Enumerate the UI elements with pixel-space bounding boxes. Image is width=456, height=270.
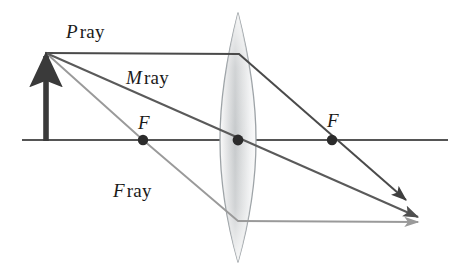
m-ray-label-symbol: M (126, 67, 144, 88)
focal-point-left-dot (138, 135, 148, 145)
focal-point-right-label: F (327, 111, 339, 130)
p-ray-incoming (46, 53, 239, 54)
f-ray-outgoing (238, 221, 418, 222)
ray-diagram-figure: Pray Mray Fray F F (0, 0, 456, 270)
f-ray-label-symbol: F (113, 180, 127, 201)
m-ray-label-text: ray (144, 67, 169, 88)
p-ray-label-symbol: P (66, 21, 80, 42)
p-ray-outgoing (239, 54, 406, 200)
p-ray-label-text: ray (80, 21, 105, 42)
f-ray-label-text: ray (127, 180, 152, 201)
f-ray-label: Fray (113, 181, 152, 200)
focal-point-right-dot (327, 135, 337, 145)
m-ray-label: Mray (126, 68, 169, 87)
lens-center-dot (233, 135, 244, 146)
focal-point-left-label: F (138, 113, 150, 132)
p-ray-label: Pray (66, 22, 105, 41)
